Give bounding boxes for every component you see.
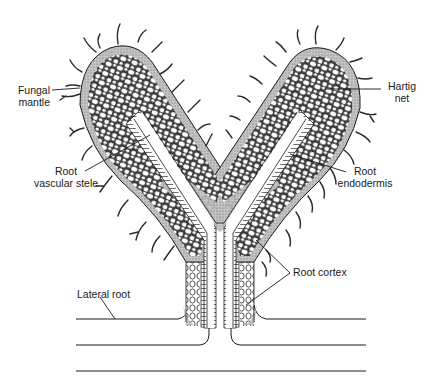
label-fungal-mantle: Fungal mantle [6,84,50,108]
label-root-endodermis-line1: Root [325,165,405,177]
label-root-vascular-stele-line1: Root [26,165,106,177]
label-lateral-root: Lateral root [77,288,130,300]
label-hartig-net-line1: Hartig [380,80,424,92]
label-fungal-mantle-line2: mantle [6,96,50,108]
label-root-cortex: Root cortex [293,266,347,278]
mycorrhizal-root-diagram [0,0,430,392]
label-hartig-net: Hartig net [380,80,424,104]
label-root-vascular-stele: Root vascular stele [26,165,106,189]
label-fungal-mantle-line1: Fungal [6,84,50,96]
parent-root-outline [76,305,366,371]
label-root-endodermis: Root endodermis [325,165,405,189]
lateral-root-base [182,255,258,327]
label-hartig-net-line2: net [380,92,424,104]
label-root-vascular-stele-line2: vascular stele [26,177,106,189]
label-root-endodermis-line2: endodermis [325,177,405,189]
